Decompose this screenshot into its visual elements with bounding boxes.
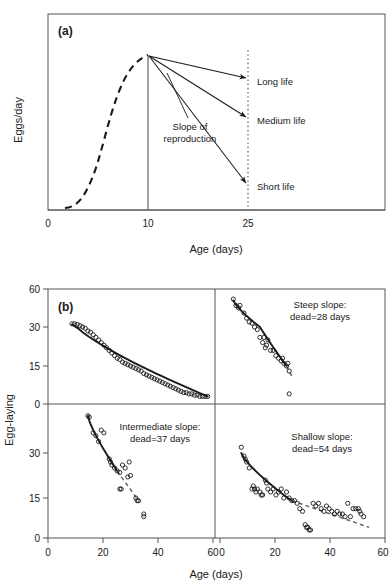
panel-a-xlabel: Age (days) [189,243,242,255]
panel-b-ytick-0-upper: 0 [34,399,40,410]
subpanel-shallow-label-line2: dead=54 days [292,443,352,454]
subpanel-steep-label-line2: dead=28 days [290,311,350,322]
figure-svg: (a) Eggs/day Long life Medium life Short… [0,0,392,586]
figure-container: (a) Eggs/day Long life Medium life Short… [0,0,392,586]
panel-b-xtick-right-40: 40 [324,547,336,558]
panel-b-ytick-15-lower: 15 [29,493,41,504]
panel-a-label-slope-line2: reproduction [164,133,217,144]
panel-b-xtick-right-20: 20 [269,547,281,558]
panel-a-xtick-0: 0 [45,218,51,229]
panel-a-xtick-25: 25 [242,218,254,229]
panel-b-ylabel: Egg-laying [3,394,15,446]
panel-b-xtick-left-20: 20 [97,547,109,558]
panel-a-label-medium-life: Medium life [257,115,306,126]
panel-a-label-short-life: Short life [257,181,295,192]
panel-b-ytick-15-upper: 15 [29,361,41,372]
subpanel-intermediate-label-line1: Intermediate slope: [120,421,201,432]
panel-a-xtick-10: 10 [142,218,154,229]
panel-b-ytick-30-lower: 30 [29,448,41,459]
panel-a-label-long-life: Long life [257,76,293,87]
panel-b-ytick-30-upper: 30 [29,322,41,333]
subpanel-shallow-label-line1: Shallow slope: [291,431,352,442]
figure-background [0,0,392,586]
panel-b-xtick-left-0: 0 [45,547,51,558]
panel-b-letter: (b) [58,300,73,314]
panel-a-ylabel: Eggs/day [12,97,24,143]
panel-a-letter: (a) [58,24,73,38]
panel-b-xlabel: Age (days) [189,568,242,580]
panel-b-ytick-0-lower: 0 [34,533,40,544]
panel-b-xtick-right-0: 0 [219,547,225,558]
panel-b-xtick-left-60: 60 [207,547,219,558]
subpanel-intermediate-label-line2: dead=37 days [130,433,190,444]
panel-b-xtick-right-60: 60 [377,547,389,558]
panel-a-label-slope-line1: Slope of [173,121,208,132]
subpanel-steep-label-line1: Steep slope: [294,299,347,310]
panel-b-xtick-left-40: 40 [152,547,164,558]
panel-b-ytick-60: 60 [29,284,41,295]
